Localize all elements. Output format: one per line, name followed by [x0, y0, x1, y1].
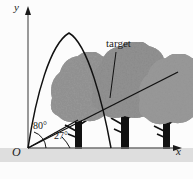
x-axis-label: x — [176, 146, 181, 157]
origin-label: O — [12, 146, 21, 158]
y-axis-label: y — [14, 2, 19, 13]
target-label: target — [106, 38, 131, 49]
angle-label-80: 80° — [33, 121, 47, 131]
projectile-trajectory-figure: y x O 80° 27° target — [0, 0, 193, 179]
angle-label-27: 27° — [54, 131, 68, 141]
ground-strip — [0, 148, 193, 162]
figure-canvas — [0, 0, 193, 179]
